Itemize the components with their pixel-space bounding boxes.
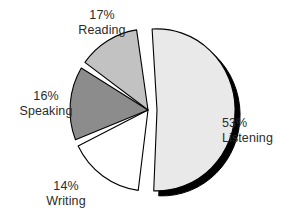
pie-label-listening-name: Listening [222, 131, 305, 146]
pie-slices [70, 29, 235, 191]
pie-label-writing: 14% Writing [20, 179, 112, 208]
pie-label-speaking-name: Speaking [0, 104, 92, 119]
pie-chart-figure: 17% Reading 16% Speaking 14% Writing 53%… [0, 0, 305, 222]
pie-label-reading: 17% Reading [56, 8, 148, 37]
pie-label-reading-name: Reading [56, 23, 148, 38]
pie-label-writing-name: Writing [20, 194, 112, 209]
pie-label-listening-percent: 53% [222, 116, 305, 131]
pie-label-speaking: 16% Speaking [0, 89, 92, 118]
pie-label-speaking-percent: 16% [0, 89, 92, 104]
pie-label-writing-percent: 14% [20, 179, 112, 194]
pie-label-reading-percent: 17% [56, 8, 148, 23]
pie-label-listening: 53% Listening [222, 116, 305, 145]
